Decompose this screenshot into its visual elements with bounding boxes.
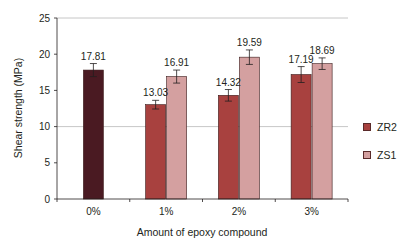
x-tick-label: 2% [232, 206, 247, 217]
value-label: 17.81 [81, 51, 106, 62]
value-label: 16.91 [164, 57, 189, 68]
x-tick-label: 0% [86, 206, 101, 217]
legend-item-zr2: ZR2 [363, 121, 397, 133]
value-label: 13.03 [143, 87, 168, 98]
x-axis-title: Amount of epoxy compound [137, 226, 268, 238]
y-tick-label: 25 [39, 13, 51, 24]
bar-zs1 [312, 64, 332, 199]
y-tick-label: 5 [44, 157, 50, 168]
value-label: 14.32 [216, 77, 241, 88]
legend-item-zs1: ZS1 [363, 149, 397, 161]
legend: ZR2 ZS1 [363, 121, 397, 177]
value-label: 18.69 [310, 45, 335, 56]
y-tick-label: 20 [39, 49, 51, 60]
y-axis-title: Shear strength (MPa) [12, 58, 24, 158]
bars [83, 50, 332, 199]
bar-zr2 [291, 75, 311, 199]
legend-label: ZR2 [377, 121, 397, 133]
legend-label: ZS1 [377, 149, 396, 161]
bar-zs1 [167, 77, 187, 199]
bar-zs1 [239, 57, 259, 199]
legend-swatch-zr2 [363, 123, 371, 131]
legend-swatch-zs1 [363, 151, 371, 159]
y-tick-label: 15 [39, 85, 51, 96]
bar-zr2 [218, 95, 238, 199]
y-tick-label: 10 [39, 121, 51, 132]
value-label: 19.59 [237, 37, 262, 48]
y-tick-label: 0 [44, 194, 50, 205]
bar-chart: 05101520250%1%2%3% 17.8113.0316.9114.321… [0, 0, 411, 246]
bar-control [83, 70, 103, 199]
x-tick-label: 3% [304, 206, 319, 217]
bar-zr2 [146, 105, 166, 199]
x-tick-label: 1% [159, 206, 174, 217]
